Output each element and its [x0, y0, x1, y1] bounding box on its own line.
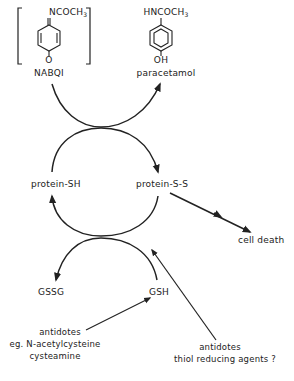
antidotes-right-line2: thiol reducing agents ? — [174, 354, 276, 365]
antidotes-left-line3: cysteamine — [29, 351, 80, 362]
nac-antidote-arrow — [86, 298, 150, 330]
nabqi-substituent: NCOCH3 — [49, 7, 87, 20]
paracetamol-hydroxyl: OH — [154, 55, 168, 66]
antidotes-left-line1: antidotes — [39, 327, 81, 338]
paracetamol-ring-icon — [150, 18, 172, 56]
cell-death-label: cell death — [238, 235, 284, 246]
antidotes-left-line2: eg. N-acetylcysteine — [10, 339, 101, 350]
gssg-label: GSSG — [38, 287, 64, 298]
paracetamol-label: paracetamol — [137, 68, 196, 79]
gsh-to-gssg-arc — [56, 238, 157, 280]
protein-sh-to-protein-ss-arc — [52, 128, 158, 172]
protein-sh-label: protein-SH — [31, 179, 81, 190]
to-cell-death-arrow — [170, 193, 250, 232]
protein-ss-label: protein-S-S — [136, 179, 188, 190]
antidotes-right-line1: antidotes — [199, 342, 241, 353]
nabqi-to-paracetamol-arc — [52, 84, 160, 127]
nabqi-label: NABQI — [34, 68, 64, 79]
paracetamol-substituent: HNCOCH3 — [143, 7, 188, 20]
pathway-diagram — [0, 0, 294, 381]
gsh-label: GSH — [149, 287, 169, 298]
nabqi-oxygen: O — [45, 55, 52, 66]
nabqi-ring-icon — [38, 18, 60, 56]
protein-ss-to-protein-sh-arc — [52, 196, 158, 236]
